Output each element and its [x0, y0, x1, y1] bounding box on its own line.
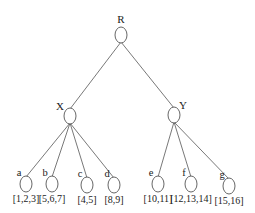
leaf-set-a: [1,2,3]: [13, 193, 40, 204]
leaf-set-e: [10,11]: [144, 193, 173, 204]
node-d: [108, 177, 120, 193]
node-label-e: e: [149, 167, 154, 178]
edge-X-b: [52, 123, 70, 177]
edge-R-X: [70, 42, 121, 109]
node-X: [64, 108, 76, 124]
edge-R-Y: [121, 42, 174, 108]
leaf-set-d: [8,9]: [104, 194, 123, 205]
leaf-set-b: [5,6,7]: [39, 193, 66, 204]
edge-X-a: [26, 123, 70, 177]
node-label-a: a: [17, 167, 22, 178]
leaf-set-f: [12,13,14]: [170, 193, 212, 204]
node-R: [115, 27, 127, 43]
node-label-g: g: [219, 169, 225, 180]
node-g: [223, 178, 235, 194]
node-label-c: c: [78, 168, 83, 179]
node-label-f: f: [182, 167, 186, 178]
node-f: [185, 176, 197, 192]
node-label-R: R: [117, 13, 125, 25]
edge-Y-e: [158, 122, 174, 177]
node-a: [20, 176, 32, 192]
tree-diagram: RXYa[1,2,3]b[5,6,7]c[4,5]d[8,9]e[10,11]f…: [0, 0, 255, 213]
node-b: [46, 176, 58, 192]
node-label-X: X: [56, 100, 64, 112]
node-c: [81, 177, 93, 193]
tree-canvas: RXYa[1,2,3]b[5,6,7]c[4,5]d[8,9]e[10,11]f…: [0, 0, 255, 213]
leaf-set-g: [15,16]: [214, 195, 243, 206]
leaf-set-c: [4,5]: [77, 194, 96, 205]
node-label-b: b: [42, 167, 47, 178]
node-label-d: d: [104, 168, 110, 179]
node-e: [152, 176, 164, 192]
node-label-Y: Y: [179, 99, 187, 111]
